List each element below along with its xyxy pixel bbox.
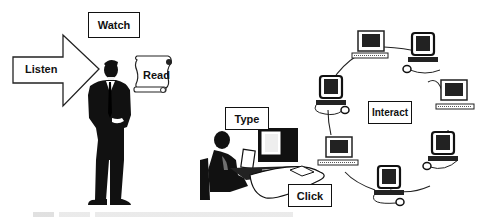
network-computer-node: [423, 132, 458, 170]
network-computer-node: [318, 137, 358, 165]
network-computer-node: [436, 80, 474, 109]
network-computer-node: [373, 166, 404, 206]
type-label-text: Type: [235, 113, 260, 125]
standing-man-figure: [88, 60, 131, 205]
type-label: Type: [225, 107, 269, 130]
cropped-caption: [33, 212, 293, 217]
click-label-text: Click: [297, 190, 323, 202]
interact-label-text: Interact: [372, 107, 408, 118]
interact-label: Interact: [368, 101, 412, 124]
listen-label: Listen: [25, 63, 57, 75]
read-label: Read: [143, 69, 170, 81]
network-computer-node: [315, 76, 349, 115]
watch-label-text: Watch: [98, 19, 131, 31]
network-computer-node: [352, 31, 388, 58]
network-computer-node: [403, 33, 440, 73]
click-label: Click: [288, 184, 332, 207]
watch-label: Watch: [88, 12, 140, 38]
